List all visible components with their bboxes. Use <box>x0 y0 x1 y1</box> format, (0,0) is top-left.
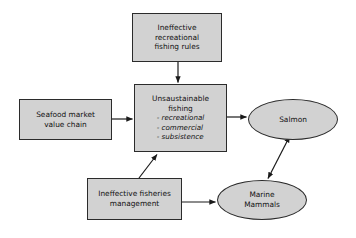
node-text-line: management <box>110 199 160 209</box>
node-text-line: fishing rules <box>154 42 199 52</box>
node-marine-mammals[interactable]: Marine Mammals <box>217 180 307 220</box>
node-text-line: fishing <box>168 104 193 114</box>
node-text-line: value chain <box>44 120 87 130</box>
node-text-line: Marine <box>249 190 274 200</box>
node-text: Seafood market value chain <box>36 110 95 129</box>
node-text-line: Seafood market <box>36 110 95 120</box>
node-text-line: Salmon <box>279 115 307 125</box>
node-sub-item: - commercial <box>157 123 203 133</box>
node-text: Ineffective recreational fishing rules <box>154 23 199 52</box>
node-seafood-market-value-chain[interactable]: Seafood market value chain <box>19 99 112 140</box>
node-text-line: Ineffective <box>158 23 197 33</box>
node-ineffective-fisheries-management[interactable]: Ineffective fisheries management <box>87 178 182 220</box>
node-salmon[interactable]: Salmon <box>248 99 338 140</box>
edge-fisheries-mgmt-to-unsustainable <box>139 155 157 179</box>
node-text: Unsaustainable fishing - recreational - … <box>152 94 209 142</box>
node-sub-list: - recreational - commercial - subsistenc… <box>157 113 205 142</box>
node-sub-item: - subsistence <box>157 132 204 142</box>
node-text: Ineffective fisheries management <box>98 189 171 208</box>
node-unsustainable-fishing[interactable]: Unsaustainable fishing - recreational - … <box>134 84 227 152</box>
node-text: Marine Mammals <box>244 190 280 209</box>
node-text: Salmon <box>279 115 307 125</box>
diagram-canvas: Ineffective recreational fishing rules S… <box>0 0 356 238</box>
node-text-line: recreational <box>155 33 199 43</box>
node-text-line: Mammals <box>244 200 280 210</box>
node-sub-item: - recreational <box>157 113 205 123</box>
node-text-line: Unsaustainable <box>152 94 209 104</box>
node-ineffective-recreational-fishing-rules[interactable]: Ineffective recreational fishing rules <box>132 13 222 62</box>
edge-salmon-to-marine-mammals <box>268 142 287 179</box>
node-text-line: Ineffective fisheries <box>98 189 171 199</box>
